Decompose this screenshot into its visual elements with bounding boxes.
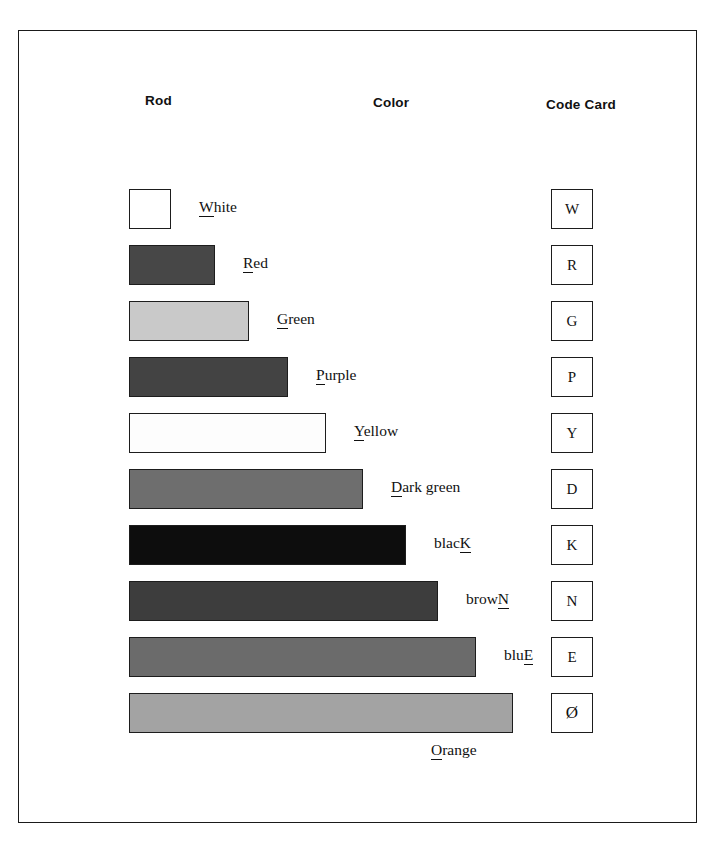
code-card-white[interactable]: W [551, 189, 593, 229]
rod-row-dark-green: Dark greenD [19, 469, 696, 513]
label-prefix: blu [504, 646, 524, 663]
label-key-letter: O [431, 741, 442, 760]
label-prefix: blac [434, 534, 460, 551]
rod-row-red: RedR [19, 245, 696, 289]
rod-bar-brown[interactable] [129, 581, 438, 621]
rod-row-green: GreenG [19, 301, 696, 345]
label-suffix: ed [253, 254, 268, 271]
code-card-blue[interactable]: E [551, 637, 593, 677]
label-suffix: hite [214, 198, 237, 215]
rod-label-black: blacK [434, 534, 471, 552]
rod-bar-blue[interactable] [129, 637, 476, 677]
label-key-letter: D [391, 478, 402, 497]
label-key-letter: P [316, 366, 325, 385]
rod-label-orange: Orange [431, 741, 477, 759]
rod-row-black: blacKK [19, 525, 696, 569]
code-card-letter: G [567, 313, 578, 330]
rod-label-blue: bluE [504, 646, 533, 664]
rod-row-blue: bluEE [19, 637, 696, 681]
rod-bar-orange[interactable] [129, 693, 513, 733]
code-card-letter: Y [567, 425, 578, 442]
rod-row-brown: browNN [19, 581, 696, 625]
code-card-green[interactable]: G [551, 301, 593, 341]
rod-bar-yellow[interactable] [129, 413, 326, 453]
code-card-yellow[interactable]: Y [551, 413, 593, 453]
code-card-letter: P [568, 369, 576, 386]
page-frame: Rod Color Code Card WhiteWRedRGreenGPurp… [18, 30, 697, 823]
rod-label-brown: browN [466, 590, 509, 608]
label-key-letter: G [277, 310, 288, 329]
label-key-letter: W [199, 198, 214, 217]
code-card-letter: D [567, 481, 578, 498]
code-card-letter: W [565, 201, 579, 218]
rod-label-red: Red [243, 254, 268, 272]
code-card-orange[interactable]: Ø [551, 693, 593, 733]
label-key-letter: R [243, 254, 253, 273]
rod-label-yellow: Yellow [354, 422, 398, 440]
column-header-code-card: Code Card [546, 97, 616, 112]
rod-row-yellow: YellowY [19, 413, 696, 457]
code-card-letter: N [567, 593, 578, 610]
code-card-letter: R [567, 257, 577, 274]
rod-bar-red[interactable] [129, 245, 215, 285]
rod-label-dark-green: Dark green [391, 478, 460, 496]
label-prefix: brow [466, 590, 498, 607]
code-card-red[interactable]: R [551, 245, 593, 285]
code-card-dark-green[interactable]: D [551, 469, 593, 509]
rod-label-green: Green [277, 310, 315, 328]
rod-row-orange: OrangeØ [19, 693, 696, 737]
label-key-letter: N [498, 590, 509, 609]
label-key-letter: Y [354, 422, 364, 441]
label-suffix: urple [325, 366, 357, 383]
label-key-letter: K [460, 534, 471, 553]
code-card-letter: Ø [566, 703, 578, 723]
label-suffix: range [442, 741, 476, 758]
rod-label-white: White [199, 198, 237, 216]
rod-bar-black[interactable] [129, 525, 406, 565]
rod-row-white: WhiteW [19, 189, 696, 233]
code-card-letter: E [567, 649, 576, 666]
label-key-letter: E [524, 646, 533, 665]
column-header-rod: Rod [145, 93, 172, 108]
code-card-brown[interactable]: N [551, 581, 593, 621]
rod-bar-dark-green[interactable] [129, 469, 363, 509]
rod-label-purple: Purple [316, 366, 356, 384]
label-suffix: reen [288, 310, 315, 327]
column-header-color: Color [373, 95, 409, 110]
code-card-purple[interactable]: P [551, 357, 593, 397]
label-suffix: ark green [402, 478, 460, 495]
rod-bar-green[interactable] [129, 301, 249, 341]
rod-bar-purple[interactable] [129, 357, 288, 397]
code-card-letter: K [567, 537, 578, 554]
rod-row-purple: PurpleP [19, 357, 696, 401]
label-suffix: ellow [364, 422, 398, 439]
rod-bar-white[interactable] [129, 189, 171, 229]
code-card-black[interactable]: K [551, 525, 593, 565]
